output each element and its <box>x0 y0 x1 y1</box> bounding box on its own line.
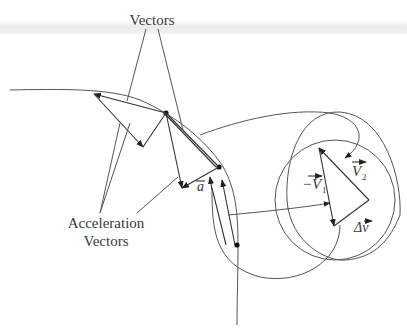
motion-vector-diagram: Vectors Acceleration Vectors a −V 1 V 2 … <box>0 0 407 330</box>
accel-construction-1b <box>143 113 166 147</box>
leader-accel-1 <box>100 123 130 213</box>
label-v2-sub: 2 <box>362 172 367 182</box>
connector-lower-sweep <box>212 190 340 279</box>
velocity-vector-2 <box>166 113 218 166</box>
accel-construction-2a <box>166 113 182 188</box>
trajectory-curve <box>10 89 238 325</box>
accel-construction-1a <box>94 94 143 147</box>
label-vectors-top: Vectors <box>130 12 175 28</box>
accel-small-arrow <box>210 177 212 190</box>
label-neg-v1: −V <box>302 176 323 192</box>
enclosing-ellipse <box>275 140 395 260</box>
leader-accel-3 <box>100 123 120 213</box>
leader-vectors-1 <box>127 29 146 101</box>
connector-top-loop <box>200 112 359 158</box>
label-vectors-bottom: Vectors <box>84 233 129 249</box>
label-neg-v1-sub: 1 <box>322 185 327 195</box>
leader-accel-2 <box>137 177 178 213</box>
label-acceleration: Acceleration <box>68 215 145 231</box>
label-delta-v: Δv <box>353 220 369 235</box>
leader-vectors-2 <box>158 29 183 130</box>
connector-to-neg-v1 <box>228 203 330 215</box>
velocity-vector-3b <box>212 188 226 245</box>
